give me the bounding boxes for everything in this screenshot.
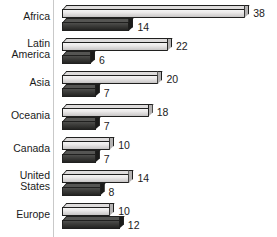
bar-side-face: [119, 216, 124, 229]
chart-row: Europe1012: [0, 200, 277, 233]
bar-side-face: [128, 170, 133, 183]
chart-row: United States148: [0, 167, 277, 200]
bar-side-face: [95, 84, 100, 97]
bar-dark: 8: [62, 183, 107, 196]
bar-value-label: 10: [118, 140, 130, 151]
bar-light: 20: [62, 71, 164, 84]
bar-side-face: [157, 71, 162, 84]
bar-value-label: 18: [157, 107, 169, 118]
bar-side-face: [90, 51, 95, 64]
bar-light: 22: [62, 38, 174, 51]
bar-front-face: [62, 108, 149, 117]
bar-front-face: [62, 141, 110, 150]
bar-front-face: [62, 22, 129, 31]
bar-side-face: [95, 150, 100, 163]
bar-side-face: [167, 38, 172, 51]
bar-light: 18: [62, 104, 155, 117]
category-label: Canada: [0, 143, 50, 154]
chart-row: Africa3814: [0, 2, 277, 35]
category-label: Latin America: [0, 38, 50, 60]
bar-light: 10: [62, 137, 116, 150]
bar-side-face: [100, 183, 105, 196]
bar-side-face: [109, 137, 114, 150]
bar-front-face: [62, 88, 96, 97]
bar-dark: 7: [62, 117, 102, 130]
bar-front-face: [62, 174, 129, 183]
bar-front-face: [62, 75, 158, 84]
bar-light: 38: [62, 5, 251, 18]
bar-value-label: 6: [99, 55, 105, 66]
bar-front-face: [62, 207, 110, 216]
chart-row: Oceania187: [0, 101, 277, 134]
bar-front-face: [62, 220, 120, 229]
bar-value-label: 7: [104, 88, 110, 99]
category-label: United States: [0, 170, 50, 192]
bar-front-face: [62, 121, 96, 130]
bar-value-label: 7: [104, 154, 110, 165]
bar-value-label: 20: [166, 74, 178, 85]
bar-side-face: [128, 18, 133, 31]
chart-row: Canada107: [0, 134, 277, 167]
bar-dark: 6: [62, 51, 97, 64]
bar-front-face: [62, 154, 96, 163]
category-label: Europe: [0, 209, 50, 220]
chart-row: Latin America226: [0, 35, 277, 68]
bar-value-label: 8: [109, 187, 115, 198]
bar-dark: 12: [62, 216, 126, 229]
bar-front-face: [62, 187, 101, 196]
bar-side-face: [148, 104, 153, 117]
bar-light: 10: [62, 203, 116, 216]
bar-value-label: 38: [253, 8, 265, 19]
bar-dark: 14: [62, 18, 135, 31]
bar-side-face: [95, 117, 100, 130]
bar-value-label: 12: [128, 220, 140, 231]
bar-value-label: 14: [137, 173, 149, 184]
bar-front-face: [62, 9, 245, 18]
category-label: Asia: [0, 77, 50, 88]
bar-value-label: 22: [176, 41, 188, 52]
bar-side-face: [244, 5, 249, 18]
bar-dark: 7: [62, 150, 102, 163]
category-label: Africa: [0, 11, 50, 22]
bar-front-face: [62, 42, 168, 51]
bar-value-label: 7: [104, 121, 110, 132]
chart-row: Asia207: [0, 68, 277, 101]
bar-side-face: [109, 203, 114, 216]
horizontal-bar-chart: Africa3814Latin America226Asia207Oceania…: [0, 0, 277, 237]
bar-value-label: 14: [137, 22, 149, 33]
bar-dark: 7: [62, 84, 102, 97]
bar-front-face: [62, 55, 91, 64]
category-label: Oceania: [0, 110, 50, 121]
bar-light: 14: [62, 170, 135, 183]
